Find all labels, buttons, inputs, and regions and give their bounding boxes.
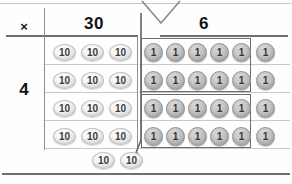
- multiplication-operator: ×: [8, 19, 40, 34]
- ten-chip[interactable]: 10: [109, 100, 132, 117]
- one-chip[interactable]: 1: [210, 71, 229, 90]
- ten-chip[interactable]: 10: [53, 128, 76, 145]
- row-rule-3: [45, 120, 137, 121]
- row-rule-ones-2: [139, 92, 290, 93]
- ten-chip[interactable]: 10: [109, 128, 132, 145]
- one-chip[interactable]: 1: [232, 99, 251, 118]
- worksheet-diagram: × 30 6 4 10 10 10 10 10 10 10 10 10 10 1…: [0, 0, 292, 184]
- one-chip[interactable]: 1: [232, 43, 251, 62]
- ten-chip[interactable]: 10: [53, 44, 76, 61]
- one-chip[interactable]: 1: [256, 99, 275, 118]
- ten-chip[interactable]: 10: [81, 72, 104, 89]
- ten-chip[interactable]: 10: [109, 44, 132, 61]
- top-rule: [0, 3, 292, 4]
- one-chip[interactable]: 1: [188, 99, 207, 118]
- one-chip[interactable]: 1: [166, 99, 185, 118]
- header-ones-value: 6: [176, 14, 232, 34]
- ten-chip[interactable]: 10: [81, 100, 104, 117]
- one-chip[interactable]: 1: [188, 43, 207, 62]
- ten-chip[interactable]: 10: [53, 100, 76, 117]
- one-chip[interactable]: 1: [210, 43, 229, 62]
- one-chip[interactable]: 1: [166, 127, 185, 146]
- one-chip[interactable]: 1: [232, 127, 251, 146]
- ten-chip[interactable]: 10: [81, 44, 104, 61]
- one-chip[interactable]: 1: [188, 127, 207, 146]
- one-chip[interactable]: 1: [166, 43, 185, 62]
- one-chip[interactable]: 1: [256, 71, 275, 90]
- divider-tens-ones: [137, 36, 138, 150]
- row-rule-1: [45, 64, 137, 65]
- ten-chip[interactable]: 10: [109, 72, 132, 89]
- one-chip[interactable]: 1: [188, 71, 207, 90]
- ten-chip[interactable]: 10: [81, 128, 104, 145]
- one-chip[interactable]: 1: [256, 43, 275, 62]
- one-chip[interactable]: 1: [232, 71, 251, 90]
- header-rule-left: [6, 35, 138, 37]
- row-rule-ones-4: [139, 148, 290, 149]
- one-chip[interactable]: 1: [166, 71, 185, 90]
- one-chip[interactable]: 1: [144, 99, 163, 118]
- one-chip[interactable]: 1: [256, 127, 275, 146]
- regrouped-ten-chip[interactable]: 10: [92, 152, 115, 169]
- header-rule-right: [160, 35, 288, 37]
- row-factor-4: 4: [8, 80, 40, 100]
- ten-chip[interactable]: 10: [53, 72, 76, 89]
- bottom-rule: [2, 173, 290, 175]
- one-chip[interactable]: 1: [144, 127, 163, 146]
- row-rule-2: [45, 92, 137, 93]
- divider-factor-column: [44, 8, 45, 150]
- regrouped-ten-chip[interactable]: 10: [120, 152, 143, 169]
- one-chip[interactable]: 1: [144, 71, 163, 90]
- one-chip[interactable]: 1: [210, 99, 229, 118]
- row-rule-4: [45, 148, 137, 149]
- header-tens-value: 30: [50, 14, 138, 34]
- one-chip[interactable]: 1: [144, 43, 163, 62]
- one-chip[interactable]: 1: [210, 127, 229, 146]
